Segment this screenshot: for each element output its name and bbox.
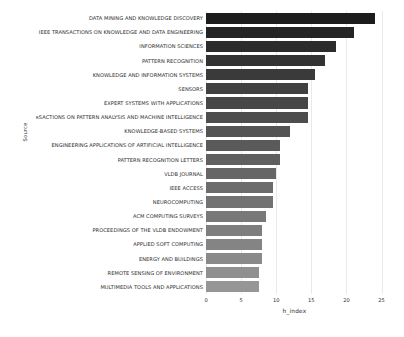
bar-category-label: KNOWLEDGE-BASED SYSTEMS [124,128,203,134]
bar-category-label: PATTERN RECOGNITION [142,58,203,64]
plot-area: DATA MINING AND KNOWLEDGE DISCOVERYIEEE … [206,11,383,294]
bar[interactable] [206,140,280,151]
bar-category-label: ACM COMPUTING SURVEYS [133,213,203,219]
bar[interactable] [206,154,280,165]
bar-row[interactable]: SENSORS [206,82,383,96]
bar[interactable] [206,267,259,278]
bar-category-label: EXPERT SYSTEMS WITH APPLICATIONS [104,100,203,106]
bar-row[interactable]: INFORMATION SCIENCES [206,39,383,53]
bar-row[interactable]: EXPERT SYSTEMS WITH APPLICATIONS [206,96,383,110]
x-tick-label: 5 [239,297,242,303]
bar-category-label: ENERGY AND BUILDINGS [139,256,203,262]
bar-category-label: PATTERN RECOGNITION LETTERS [118,157,203,163]
bar-category-label: MULTIMEDIA TOOLS AND APPLICATIONS [100,284,203,290]
bar-row[interactable]: IEEE TRANSACTIONS ON KNOWLEDGE AND DATA … [206,25,383,39]
bar-row[interactable]: NEUROCOMPUTING [206,195,383,209]
bar-row[interactable]: APPLIED SOFT COMPUTING [206,237,383,251]
bar-row[interactable]: MULTIMEDIA TOOLS AND APPLICATIONS [206,280,383,294]
bar-category-label: KNOWLEDGE AND INFORMATION SYSTEMS [93,72,203,78]
bar[interactable] [206,55,325,66]
bar-category-label: ʀSACTIONS ON PATTERN ANALYSIS AND MACHIN… [36,114,203,120]
bar[interactable] [206,281,259,292]
bar[interactable] [206,225,262,236]
x-tick-label: 15 [308,297,314,303]
bar[interactable] [206,239,262,250]
bar-category-label: VLDB JOURNAL [164,171,203,177]
bar-category-label: NEUROCOMPUTING [153,199,203,205]
bar[interactable] [206,97,308,108]
bar-category-label: PROCEEDINGS OF THE VLDB ENDOWMENT [92,227,203,233]
bar-row[interactable]: KNOWLEDGE-BASED SYSTEMS [206,124,383,138]
bar[interactable] [206,27,354,38]
x-tick-label: 10 [273,297,279,303]
x-tick-label: 0 [204,297,207,303]
bar[interactable] [206,112,308,123]
x-tick-label: 25 [378,297,384,303]
bar-row[interactable]: IEEE ACCESS [206,181,383,195]
bar-category-label: IEEE TRANSACTIONS ON KNOWLEDGE AND DATA … [39,29,203,35]
bar-row[interactable]: VLDB JOURNAL [206,167,383,181]
bar-row[interactable]: ENGINEERING APPLICATIONS OF ARTIFICIAL I… [206,138,383,152]
bar[interactable] [206,69,315,80]
bar-category-label: IEEE ACCESS [169,185,203,191]
bar[interactable] [206,168,276,179]
bar-category-label: SENSORS [178,86,203,92]
bar-row[interactable]: KNOWLEDGE AND INFORMATION SYSTEMS [206,68,383,82]
bar-category-label: REMOTE SENSING OF ENVIRONMENT [108,270,203,276]
bar[interactable] [206,253,262,264]
x-tick-label: 20 [343,297,349,303]
x-axis-title: h_index [206,308,383,314]
bar-row[interactable]: DATA MINING AND KNOWLEDGE DISCOVERY [206,11,383,25]
bar[interactable] [206,83,308,94]
bar-row[interactable]: PATTERN RECOGNITION LETTERS [206,153,383,167]
bar-row[interactable]: REMOTE SENSING OF ENVIRONMENT [206,266,383,280]
bar[interactable] [206,13,375,24]
bar[interactable] [206,41,336,52]
bar-category-label: DATA MINING AND KNOWLEDGE DISCOVERY [89,15,203,21]
bar-row[interactable]: PATTERN RECOGNITION [206,53,383,67]
bar-category-label: INFORMATION SCIENCES [139,43,203,49]
h-index-bar-chart: Source DATA MINING AND KNOWLEDGE DISCOVE… [0,0,404,337]
bar[interactable] [206,211,266,222]
bar-row[interactable]: ACM COMPUTING SURVEYS [206,209,383,223]
bar[interactable] [206,126,290,137]
bar-row[interactable]: ENERGY AND BUILDINGS [206,252,383,266]
bar-row[interactable]: PROCEEDINGS OF THE VLDB ENDOWMENT [206,223,383,237]
y-axis-title: Source [22,102,32,162]
bar[interactable] [206,182,273,193]
bar[interactable] [206,196,273,207]
bar-category-label: APPLIED SOFT COMPUTING [133,241,203,247]
bar-category-label: ENGINEERING APPLICATIONS OF ARTIFICIAL I… [52,142,203,148]
bar-row[interactable]: ʀSACTIONS ON PATTERN ANALYSIS AND MACHIN… [206,110,383,124]
